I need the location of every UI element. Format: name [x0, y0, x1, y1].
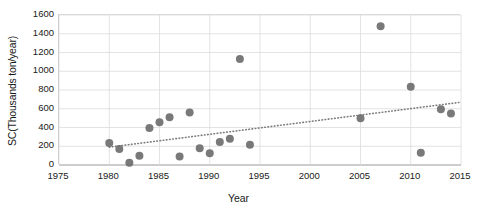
- x-axis-title: Year: [0, 192, 477, 204]
- data-point: [437, 105, 445, 113]
- y-axis-title: SC(Thousands ton/year): [4, 6, 20, 176]
- data-point: [246, 141, 254, 149]
- data-point: [196, 144, 204, 152]
- x-axis-tick-label: 1975: [33, 170, 83, 182]
- data-point: [236, 55, 244, 63]
- data-point: [176, 153, 184, 161]
- x-axis-tick-label: 1985: [134, 170, 184, 182]
- data-point: [156, 118, 164, 126]
- y-axis-tick-label: 1600: [20, 9, 54, 19]
- data-point: [105, 139, 113, 147]
- x-axis-tick-labels: 197519801985199019952000200520102015: [0, 170, 477, 184]
- data-point: [125, 159, 133, 167]
- data-point: [357, 114, 365, 122]
- y-axis-tick-label: 1200: [20, 47, 54, 57]
- data-point: [407, 83, 415, 91]
- y-axis-tick-label: 800: [20, 84, 54, 94]
- x-axis-tick-label: 2015: [435, 170, 477, 182]
- data-point: [417, 149, 425, 157]
- x-axis-tick-label: 2005: [335, 170, 385, 182]
- data-points: [59, 15, 461, 165]
- data-point: [447, 109, 455, 117]
- scatter-chart: SC(Thousands ton/year) 02004006008001000…: [0, 0, 477, 217]
- data-point: [377, 22, 385, 30]
- data-point: [186, 109, 194, 117]
- x-axis-tick-label: 2010: [385, 170, 435, 182]
- x-axis-tick-label: 1990: [184, 170, 234, 182]
- data-point: [115, 145, 123, 153]
- y-axis-tick-label: 600: [20, 103, 54, 113]
- data-point: [216, 138, 224, 146]
- y-axis-tick-labels: 02004006008001000120014001600: [20, 0, 54, 217]
- data-point: [206, 149, 214, 157]
- y-axis-tick-label: 1400: [20, 28, 54, 38]
- data-point: [145, 124, 153, 132]
- y-axis-tick-label: 200: [20, 140, 54, 150]
- y-axis-tick-label: 1000: [20, 65, 54, 75]
- data-point: [226, 135, 234, 143]
- y-axis-tick-label: 400: [20, 122, 54, 132]
- y-axis-tick-label: 0: [20, 159, 54, 169]
- data-point: [135, 152, 143, 160]
- x-axis-tick-label: 2000: [284, 170, 334, 182]
- x-axis-tick-label: 1980: [83, 170, 133, 182]
- data-point: [166, 113, 174, 121]
- x-axis-tick-label: 1995: [234, 170, 284, 182]
- plot-area: [58, 14, 460, 164]
